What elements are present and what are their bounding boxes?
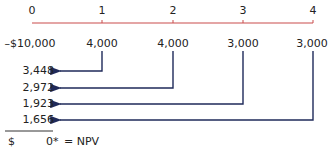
period-label-0: 0 [29,5,36,17]
period-label-2: 2 [170,5,177,17]
npv-value: 0* [46,136,59,148]
period-label-4: 4 [310,5,317,17]
npv-label: = NPV [64,136,99,148]
present-value-1: 3,448 [4,65,54,77]
cash-flow-1: 4,000 [86,38,118,50]
discount-arrow-4 [60,51,313,120]
discount-arrow-2 [60,51,173,88]
cash-flow-4: 3,000 [296,38,328,50]
discount-arrow-1 [60,51,102,71]
discount-arrow-3 [60,51,243,104]
present-value-2: 2,972 [4,82,54,94]
cash-flow-0: –$10,000 [5,38,56,50]
currency-symbol: $ [8,136,15,148]
present-value-4: 1,656 [4,114,54,126]
cash-flow-3: 3,000 [227,38,259,50]
present-value-3: 1,923 [4,98,54,110]
period-label-1: 1 [99,5,106,17]
cash-flow-2: 4,000 [157,38,189,50]
period-label-3: 3 [240,5,247,17]
